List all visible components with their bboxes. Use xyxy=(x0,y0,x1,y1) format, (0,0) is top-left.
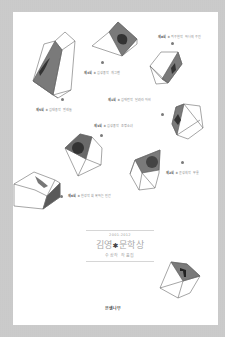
caption-number: 제3회 xyxy=(94,124,102,128)
polyhedron-5 xyxy=(65,134,102,176)
book-subtitle: 수상작 작품집 xyxy=(85,252,155,258)
caption-text: ✱ 한강작 회복하는 인간 xyxy=(77,194,111,198)
polyhedron-7 xyxy=(14,172,60,209)
caption-1: 제8회✱ 최우현작 하나의 우진 xyxy=(158,35,201,39)
polyhedron-4 xyxy=(172,104,203,139)
marker-dot xyxy=(161,113,164,116)
polyhedron-2 xyxy=(92,22,137,56)
title-block: 2001-2012 김영✱문학상 수상작 작품집 xyxy=(85,230,155,262)
caption-number: 제6회 xyxy=(68,194,76,198)
polyhedron-1 xyxy=(33,32,75,98)
caption-text: ✱ 김태용작 벌레들 xyxy=(45,108,71,112)
caption-number: 제1회 xyxy=(108,98,116,102)
marker-dot xyxy=(171,42,174,45)
marker-dot xyxy=(100,134,103,137)
publisher-logo: 은행나무 xyxy=(100,305,125,311)
caption-3: 제5회✱ 김태용작 벌레들 xyxy=(36,108,72,112)
years-label: 2001-2012 xyxy=(85,233,155,237)
polyhedron-8 xyxy=(160,262,200,298)
caption-text: ✱ 윤성희작 무릎 xyxy=(175,171,198,175)
caption-5: 제3회✱ 김성중작 조명소녀 xyxy=(94,124,133,128)
marker-dot xyxy=(181,161,184,164)
polyhedron-3 xyxy=(150,52,182,84)
polyhedron-6 xyxy=(130,150,160,190)
caption-number: 제4회 xyxy=(84,71,92,75)
caption-7: 제6회✱ 한강작 회복하는 인간 xyxy=(68,194,111,198)
caption-text: ✱ 김성중작 개그맨 xyxy=(93,71,119,75)
caption-6: 제2회✱ 윤성희작 무릎 xyxy=(166,171,199,175)
caption-number: 제8회 xyxy=(158,35,166,39)
caption-text: ✱ 최우현작 하나의 우진 xyxy=(167,35,201,39)
caption-text: ✱ 김애란작 달려라 아비 xyxy=(117,98,151,102)
marker-dot xyxy=(61,98,64,101)
polyhedra-illustration xyxy=(0,0,225,337)
caption-number: 제5회 xyxy=(36,108,44,112)
caption-text: ✱ 김성중작 조명소녀 xyxy=(103,124,133,128)
caption-4: 제1회✱ 김애란작 달려라 아비 xyxy=(108,98,151,102)
title-part-2: 문학상 xyxy=(119,240,145,250)
marker-dot xyxy=(101,61,104,64)
book-title: 김영✱문학상 xyxy=(85,238,155,251)
title-rule-top xyxy=(86,230,154,231)
title-part-1: 김영 xyxy=(96,240,113,250)
caption-2: 제4회✱ 김성중작 개그맨 xyxy=(84,71,120,75)
title-rule-bottom xyxy=(86,261,154,262)
marker-dot xyxy=(60,195,63,198)
caption-number: 제2회 xyxy=(166,171,174,175)
